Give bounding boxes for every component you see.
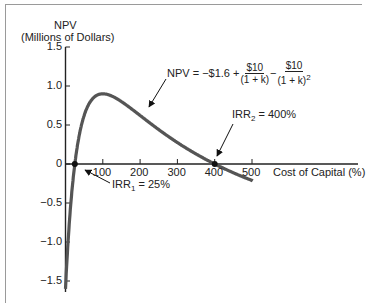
y-tick-label: 1.5 [47,40,62,52]
y-tick-label: 0 [56,157,62,169]
formula-lhs: NPV = −$1.6 + [167,67,239,79]
y-axis-title-line1: NPV [54,19,77,31]
y-tick-label: 0.5 [47,118,62,130]
irr1-point [72,161,78,167]
x-tick-label: 300 [167,166,185,178]
formula-minus: − [270,67,276,79]
frac1-numerator: $10 [245,62,264,74]
frac1-denominator: (1 + k) [240,74,269,85]
y-tick-label: −1.5 [40,274,62,286]
y-axis-title-line2: (Millions of Dollars) [21,31,115,43]
formula-fraction-1: $10 (1 + k) [240,62,269,85]
x-tick-label: 500 [242,166,260,178]
x-tick-label: 100 [93,166,111,178]
irr2-label: IRR2 = 400% [232,108,296,123]
irr2-arrow [217,124,233,156]
x-tick-label: 400 [205,166,223,178]
formula-fraction-2: $10 (1 + k)2 [278,60,311,86]
formula-arrow [149,79,166,107]
x-axis-title: Cost of Capital (%) [273,166,365,178]
frac2-denominator: (1 + k)2 [278,72,311,86]
npv-formula: NPV = −$1.6 + $10 (1 + k) − $10 (1 + k)2 [167,60,312,86]
y-tick-label: −1.0 [40,235,62,247]
frac2-numerator: $10 [285,60,304,72]
y-tick-label: 1.0 [47,79,62,91]
x-tick-label: 200 [130,166,148,178]
irr1-label: IRR1 = 25% [112,178,170,193]
y-tick-label: −0.5 [40,196,62,208]
